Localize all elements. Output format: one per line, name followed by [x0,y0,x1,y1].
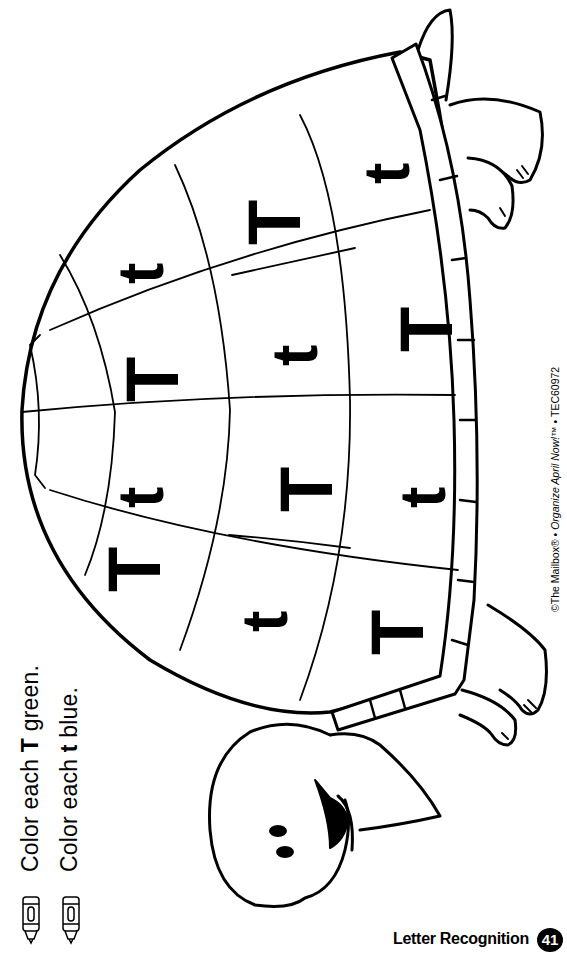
shell-letter: T [264,467,349,512]
copyright-notice: ©The Mailbox® • Organize April Now!™ • T… [549,367,561,612]
shell-letter: t [386,487,460,508]
shell-letter: T [355,610,440,655]
shell-letter: T [384,307,469,352]
turtle-eye [269,825,287,837]
page-number-badge: 41 [537,928,563,952]
copyright-title: Organize April Now!™ [549,426,561,529]
copyright-suffix: • TEC60972 [549,367,561,427]
instruction-blue: Color each t blue. [56,687,83,872]
instruction-letter: T [17,738,43,752]
instruction-prefix: Color each [17,752,43,872]
turtle-eye [276,846,294,858]
shell-letter: t [104,263,178,284]
shell-letter: t [104,487,178,508]
crayon-icon [60,895,82,945]
shell-letter: T [92,547,177,592]
instruction-suffix: green. [17,665,43,738]
instruction-letter: t [56,744,82,752]
crayon-icon [20,895,42,945]
shell-letter: T [232,200,317,245]
instruction-suffix: blue. [56,687,82,744]
instruction-prefix: Color each [56,752,82,872]
turtle-rear-leg-2 [460,690,516,745]
instruction-green: Color each T green. [17,665,44,872]
shell-letter: t [258,345,332,366]
turtle-rear-leg-1 [488,605,546,714]
shell-letter: T [110,357,195,402]
section-title: Letter Recognition [393,930,529,948]
copyright-prefix: ©The Mailbox® • [549,530,561,612]
shell-letter: t [350,163,424,184]
shell-letter: t [228,611,302,632]
